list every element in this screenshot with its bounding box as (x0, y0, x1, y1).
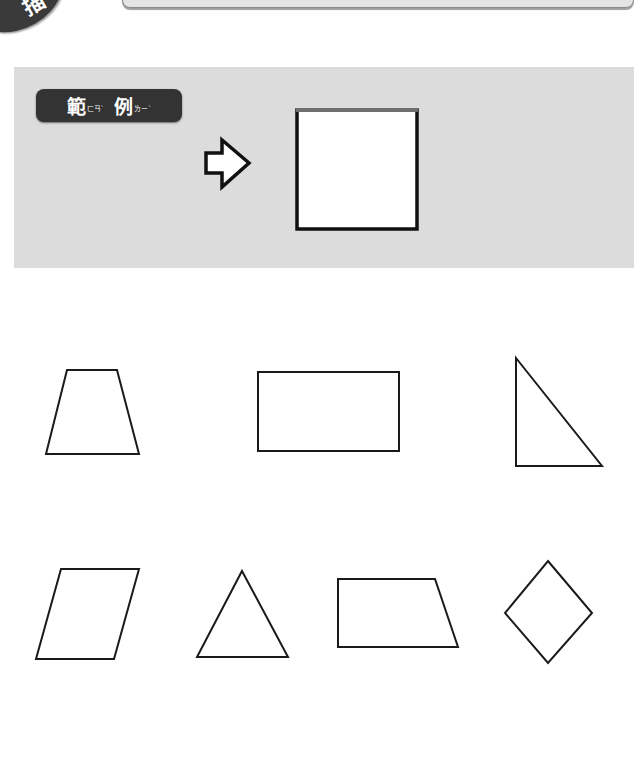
shape-parallelogram[interactable] (36, 569, 139, 659)
shape-trapezoid[interactable] (46, 370, 139, 454)
shape-triangle[interactable] (197, 571, 288, 657)
shapes-canvas (0, 0, 634, 759)
right-arrow-icon (206, 140, 249, 187)
example-square (296, 110, 418, 229)
shape-right-trapezoid[interactable] (338, 579, 458, 647)
shape-rhombus[interactable] (505, 561, 592, 663)
shape-right-triangle[interactable] (516, 358, 602, 466)
shape-rectangle[interactable] (258, 372, 399, 451)
